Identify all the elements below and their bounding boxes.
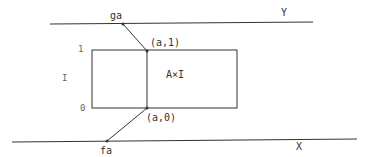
map-f-line (107, 108, 147, 141)
space-y-label: Y (281, 7, 287, 18)
space-x-label: X (296, 141, 302, 152)
product-rectangle (92, 50, 237, 108)
interval-label: I (62, 73, 67, 83)
point-a1-label: (a,1) (150, 37, 180, 48)
interval-bottom-label: 0 (80, 103, 85, 113)
rect-label: A×I (166, 69, 184, 80)
interval-top-label: 1 (78, 44, 83, 54)
map-g-line (123, 24, 147, 51)
point-ga-label: ga (110, 10, 122, 21)
space-y-line (50, 22, 313, 24)
homotopy-diagram: Y X ga fa A×I (a,1) (a,0) 1 I 0 (0, 0, 365, 157)
space-x-line (12, 139, 357, 142)
point-a0-label: (a,0) (146, 112, 176, 123)
point-fa-label: fa (100, 145, 112, 156)
